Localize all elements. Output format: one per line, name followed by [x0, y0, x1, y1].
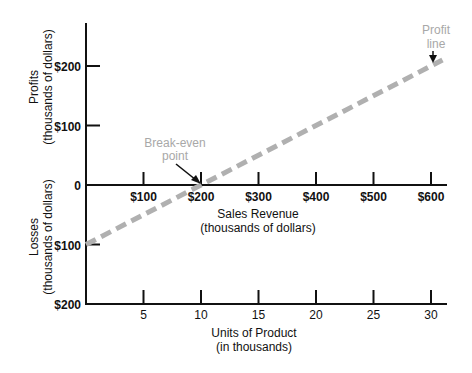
sales-revenue-tick-label: $200	[188, 190, 215, 204]
units-tick-label: 15	[252, 308, 266, 322]
losses-axis-title: Losses	[27, 218, 41, 256]
sales-revenue-tick-label: $400	[303, 190, 330, 204]
profits-axis-subtitle: (thousands of dollars)	[41, 29, 55, 144]
profits-axis-title: Profits	[27, 70, 41, 104]
units-title: Units of Product	[211, 326, 297, 340]
sales-revenue-tick-label: $300	[245, 190, 272, 204]
sales-revenue-ticks: $100$200$300$400$500$600	[130, 172, 445, 204]
sales-revenue-tick-label: $100	[130, 190, 157, 204]
break-even-label: Break-even	[144, 136, 205, 150]
break-even-chart: $200$1000$100$200 $100$200$300$400$500$6…	[0, 0, 472, 373]
units-tick-label: 25	[367, 308, 381, 322]
sales-revenue-title: Sales Revenue	[217, 207, 299, 221]
profit-line-label-line2: line	[427, 37, 446, 51]
y-tick-label: $200	[54, 298, 81, 312]
sales-revenue-tick-label: $600	[418, 190, 445, 204]
units-tick-label: 20	[309, 308, 323, 322]
units-subtitle: (in thousands)	[216, 340, 292, 354]
units-tick-label: 5	[140, 308, 147, 322]
losses-axis-subtitle: (thousands of dollars)	[41, 179, 55, 294]
profit-line-label: Profit	[422, 23, 451, 37]
units-tick-label: 10	[194, 308, 208, 322]
y-tick-label: $200	[54, 60, 81, 74]
sales-revenue-subtitle: (thousands of dollars)	[200, 221, 315, 235]
break-even-arrow	[176, 164, 201, 184]
y-tick-label: 0	[74, 179, 81, 193]
y-tick-label: $100	[54, 239, 81, 253]
units-ticks: 51015202530	[140, 290, 438, 322]
break-even-label-line2: point	[162, 149, 189, 163]
sales-revenue-tick-label: $500	[360, 190, 387, 204]
y-tick-label: $100	[54, 120, 81, 134]
units-tick-label: 30	[424, 308, 438, 322]
